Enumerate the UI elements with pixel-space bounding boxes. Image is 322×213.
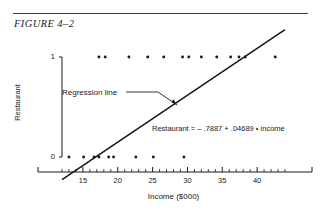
- y-axis-label: Restaurant: [13, 73, 22, 133]
- data-points-group: [68, 56, 277, 159]
- data-point: [112, 156, 115, 159]
- x-axis-label: Income ($000): [62, 192, 285, 201]
- x-tick-label: 40: [247, 176, 267, 185]
- x-tick-label: 35: [212, 176, 232, 185]
- x-tick-label: 30: [177, 176, 197, 185]
- x-tick-label: 15: [73, 176, 93, 185]
- data-point: [146, 56, 149, 59]
- data-point: [215, 56, 218, 59]
- axes-group: [38, 57, 312, 172]
- data-point: [162, 56, 165, 59]
- data-point: [238, 56, 241, 59]
- data-point: [82, 156, 85, 159]
- data-point: [244, 56, 247, 59]
- y-tick-label: 1: [41, 52, 55, 61]
- data-point: [93, 156, 96, 159]
- data-point: [107, 156, 110, 159]
- regression-equation-label: Restaurant = – .7887 + .04689 • income: [152, 124, 285, 133]
- data-point: [183, 156, 186, 159]
- data-point: [97, 156, 100, 159]
- leader-line: [126, 92, 177, 105]
- data-point: [229, 56, 232, 59]
- x-tick-label: 20: [108, 176, 128, 185]
- regression-label-leader: [126, 92, 177, 105]
- regression-line-label: Regression line: [62, 88, 117, 97]
- data-point: [104, 56, 107, 59]
- data-point: [187, 56, 190, 59]
- data-point: [181, 56, 184, 59]
- figure-container: FIGURE 4–2 Restaurant Income ($000) 01 1…: [0, 0, 322, 213]
- data-point: [68, 156, 71, 159]
- x-tick-label: 25: [143, 176, 163, 185]
- data-point: [152, 156, 155, 159]
- y-tick-label: 0: [41, 152, 55, 161]
- data-point: [127, 56, 130, 59]
- data-point: [200, 56, 203, 59]
- data-point: [97, 56, 100, 59]
- data-point: [274, 56, 277, 59]
- data-point: [134, 156, 137, 159]
